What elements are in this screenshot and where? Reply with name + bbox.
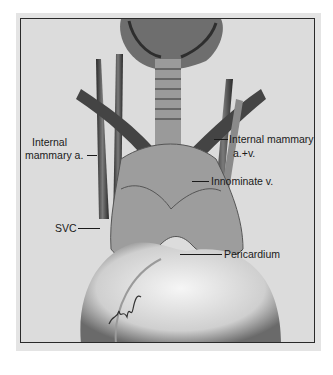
label-internal-mammary-av-line1: Internal mammary — [229, 133, 314, 145]
leader-svc — [78, 228, 100, 229]
leader-pericardium — [180, 254, 222, 255]
label-internal-mammary-a-line1: Internal — [32, 136, 67, 148]
leader-internal-mammary-a — [87, 155, 97, 156]
label-innominate-v: Innominate v. — [211, 175, 273, 187]
leader-innominate-v — [192, 181, 209, 182]
label-svc: SVC — [55, 222, 77, 234]
label-internal-mammary-av-line2: a.+v. — [233, 147, 255, 159]
leader-internal-mammary-av — [214, 139, 228, 140]
label-internal-mammary-a-line2: mammary a. — [25, 149, 83, 161]
label-pericardium: Pericardium — [224, 248, 280, 260]
